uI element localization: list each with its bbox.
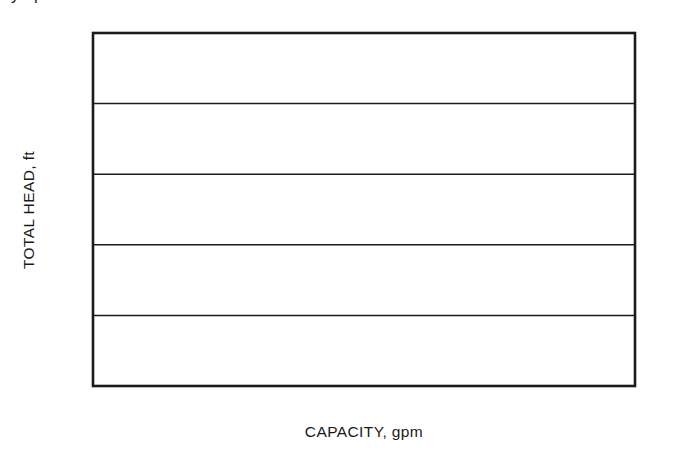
figure-background (0, 0, 676, 462)
chart-figure: Pump Curve Point of Operation System Cur… (0, 0, 676, 462)
chart-svg: Pump Curve Point of Operation System Cur… (0, 0, 676, 462)
system-curve-label: System Curve (0, 0, 104, 3)
x-axis-title: CAPACITY, gpm (305, 423, 423, 440)
y-axis-title: TOTAL HEAD, ft (20, 151, 37, 269)
